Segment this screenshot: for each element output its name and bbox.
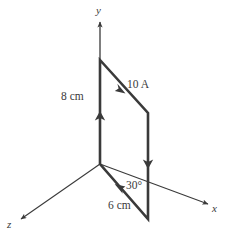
current-arrowheads	[95, 84, 153, 194]
current-label: 10 A	[127, 79, 149, 91]
axes-group	[21, 22, 208, 219]
bottom-side-length-label: 6 cm	[108, 200, 131, 212]
left-side-length-label: 8 cm	[61, 91, 84, 103]
z-axis-label: z	[7, 219, 11, 230]
x-axis-label: x	[212, 203, 217, 214]
angle-label: 30°	[126, 180, 142, 192]
z-axis-line	[21, 164, 100, 219]
physics-figure: y x z 8 cm 6 cm 10 A 30°	[0, 0, 236, 243]
y-axis-label: y	[96, 5, 101, 16]
